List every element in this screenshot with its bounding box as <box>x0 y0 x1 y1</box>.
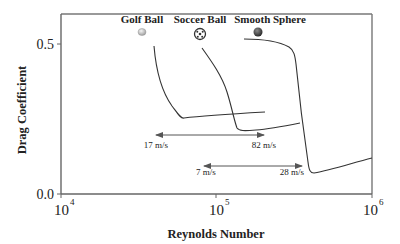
svg-text:28 m/s: 28 m/s <box>280 167 305 177</box>
svg-text:17 m/s: 17 m/s <box>144 140 169 150</box>
x-tick-label-1e5: 10 5 <box>209 197 230 218</box>
y-tick-label-0.5: 0.5 <box>37 37 55 52</box>
y-tick-label-0.0: 0.0 <box>37 187 55 202</box>
y-axis-label: Drag Coefficient <box>15 65 29 154</box>
svg-text:5: 5 <box>225 197 230 207</box>
golf-ball-icon <box>138 29 146 36</box>
x-axis-label: Reynolds Number <box>168 227 265 241</box>
velocity-range-arrow-golf: 17 m/s 82 m/s <box>144 135 277 150</box>
legend-label-smooth-sphere: Smooth Sphere <box>234 13 306 25</box>
x-tick-label-1e4: 10 4 <box>54 197 75 218</box>
x-tick-label-1e6: 10 6 <box>363 197 384 218</box>
svg-text:82 m/s: 82 m/s <box>252 140 277 150</box>
svg-text:6: 6 <box>379 197 384 207</box>
svg-text:10: 10 <box>363 202 378 218</box>
legend-label-soccer-ball: Soccer Ball <box>174 13 227 25</box>
soccer-ball-curve <box>202 48 300 131</box>
smooth-sphere-curve <box>244 39 372 173</box>
svg-text:4: 4 <box>70 197 75 207</box>
golf-ball-curve <box>154 46 265 118</box>
velocity-range-arrow-soccer: 7 m/s 28 m/s <box>196 166 305 177</box>
legend-label-golf-ball: Golf Ball <box>121 13 163 25</box>
smooth-sphere-icon <box>254 28 263 37</box>
svg-text:10: 10 <box>209 202 224 218</box>
soccer-ball-icon <box>195 29 206 40</box>
svg-text:10: 10 <box>54 202 69 218</box>
drag-coefficient-chart: 0.5 0.0 10 4 10 5 10 6 Reynolds Number D… <box>0 0 400 244</box>
svg-text:7 m/s: 7 m/s <box>196 167 216 177</box>
